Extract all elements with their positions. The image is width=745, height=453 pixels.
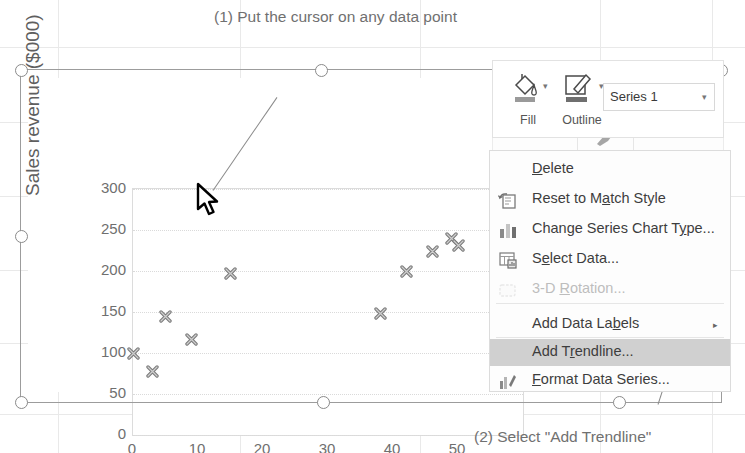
submenu-arrow-icon: ▸: [713, 320, 718, 330]
series-dropdown[interactable]: Series 1 ▾: [603, 83, 715, 111]
resize-handle-bottom-right[interactable]: [613, 396, 626, 409]
menu-separator: [496, 303, 724, 304]
fill-dropdown-caret[interactable]: ▾: [543, 81, 548, 91]
menu-separator: [496, 337, 724, 338]
paint-bucket-icon: [510, 71, 540, 109]
series-dropdown-caret[interactable]: ▾: [702, 92, 707, 102]
menu-item-add-trendline[interactable]: Add Trendline...: [490, 339, 730, 366]
x-axis-tick-label: 30: [307, 440, 347, 453]
outline-button[interactable]: ▾ Outline: [555, 67, 609, 131]
resize-handle-top-center[interactable]: [315, 64, 328, 77]
menu-item-label: Add Data Labels: [532, 315, 639, 331]
series-dropdown-value: Series 1: [610, 89, 658, 104]
context-menu[interactable]: DeleteReset to Match StyleChange Series …: [489, 150, 731, 392]
menu-item-label: 3-D Rotation...: [532, 280, 626, 296]
format-series-icon: [498, 371, 518, 391]
menu-item-format-data-series[interactable]: Format Data Series...: [490, 367, 730, 394]
menu-item-label: Format Data Series...: [532, 371, 670, 387]
rotation-3d-icon: [498, 280, 518, 300]
menu-item-select-data[interactable]: Select Data...: [490, 246, 730, 273]
menu-item-label: Select Data...: [532, 250, 619, 266]
pencil-outline-icon: [562, 71, 594, 109]
reset-style-icon: [498, 190, 518, 210]
resize-handle-bottom-center[interactable]: [317, 396, 330, 409]
outline-button-label: Outline: [555, 113, 609, 127]
fill-button[interactable]: ▾ Fill: [501, 67, 555, 131]
menu-item-label: Reset to Match Style: [532, 190, 666, 206]
menu-item-reset-to-match-style[interactable]: Reset to Match Style: [490, 186, 730, 213]
fill-button-label: Fill: [501, 113, 555, 127]
callout-step-2: (2) Select "Add Trendline": [474, 428, 651, 446]
x-axis-tick-label: 50: [437, 440, 477, 453]
menu-item-label: Add Trendline...: [532, 343, 634, 359]
menu-item-label: Change Series Chart Type...: [532, 220, 715, 236]
resize-handle-bottom-left[interactable]: [15, 396, 28, 409]
mouse-cursor-icon: [196, 182, 224, 216]
gridline-horizontal: [133, 435, 523, 437]
excel-chart-screenshot: Sales revenue ($000) Expenditures ($000)…: [0, 0, 745, 453]
x-axis-tick-label: 20: [242, 440, 282, 453]
menu-item-delete[interactable]: Delete: [490, 156, 730, 183]
x-axis-tick-label: 40: [372, 440, 412, 453]
menu-item-label: Delete: [532, 160, 574, 176]
chart-type-icon: [498, 220, 518, 240]
menu-item-change-series-chart-type[interactable]: Change Series Chart Type...: [490, 216, 730, 243]
x-axis-tick-label: 0: [112, 440, 152, 453]
x-axis-tick-label: 10: [177, 440, 217, 453]
mini-toolbar[interactable]: ▾ Fill ▾ Outline Series 1 ▾: [492, 60, 724, 138]
select-data-icon: [498, 250, 518, 270]
resize-handle-middle-left[interactable]: [15, 230, 28, 243]
resize-handle-top-left[interactable]: [15, 64, 28, 77]
callout-step-1: (1) Put the cursor on any data point: [214, 8, 457, 26]
menu-item-3-d-rotation: 3-D Rotation...: [490, 276, 730, 303]
menu-item-add-data-labels[interactable]: Add Data Labels▸: [490, 311, 730, 338]
